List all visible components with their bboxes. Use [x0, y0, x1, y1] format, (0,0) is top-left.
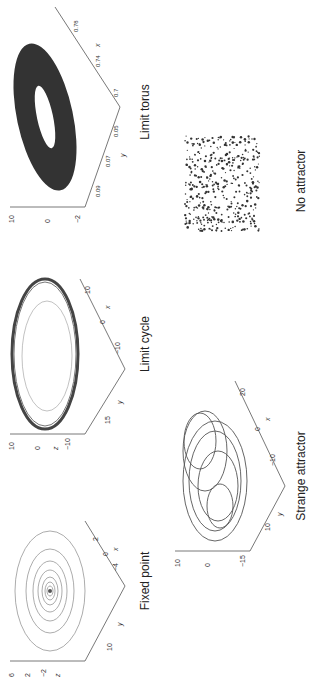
y-axis-label: y	[119, 153, 127, 158]
panel-limit-torus: 10 0 −2 0.09 0.07 0.05 y 0.7 0.74 0.78 x…	[0, 0, 160, 227]
z-tick: −10	[64, 438, 71, 450]
no-attractor-plot	[160, 0, 314, 341]
limit-cycle-plot: 10 0 −10 z 15 y −10 0 10 x	[0, 227, 160, 454]
caption-limit-torus: Limit torus	[138, 72, 152, 152]
z-tick: 0	[204, 563, 211, 567]
figure-canvas: 6 2 −2 z 10 y −4 0 2 x Fixed point 10 0 …	[0, 0, 314, 681]
y-axis-label: y	[116, 622, 124, 627]
z-tick: 2	[24, 673, 31, 677]
panel-no-attractor: No attractor	[160, 0, 314, 341]
strange-attractor-plot: 10 0 −15 10 y −10 0 20 x	[160, 341, 314, 681]
x-tick: 0.74	[95, 55, 101, 67]
z-tick: −2	[74, 215, 81, 223]
y-axis-label: y	[276, 512, 284, 517]
caption-no-attractor: No attractor	[294, 131, 308, 231]
x-tick: 0	[99, 320, 106, 324]
x-tick: 20	[239, 388, 246, 396]
y-tick: 0.07	[105, 155, 111, 167]
y-axis-label: y	[116, 400, 124, 405]
panel-limit-cycle: 10 0 −10 z 15 y −10 0 10 x Limit cycle	[0, 227, 160, 454]
x-tick: −10	[269, 454, 276, 466]
z-tick: 0	[44, 219, 51, 223]
caption-strange-attractor: Strange attractor	[294, 421, 308, 531]
caption-limit-cycle: Limit cycle	[138, 304, 152, 384]
z-tick: −15	[239, 555, 246, 567]
z-axis-label: z	[52, 446, 59, 451]
x-tick: 0	[254, 427, 261, 431]
y-tick: 10	[264, 523, 271, 531]
limit-torus-plot: 10 0 −2 0.09 0.07 0.05 y 0.7 0.74 0.78 x	[0, 0, 160, 227]
z-tick: 6	[8, 673, 15, 677]
fixed-point-plot: 6 2 −2 z 10 y −4 0 2 x	[0, 454, 160, 681]
x-tick: −4	[112, 563, 119, 571]
y-tick: 10	[106, 643, 113, 651]
panel-fixed-point: 6 2 −2 z 10 y −4 0 2 x Fixed point	[0, 454, 160, 681]
z-tick: 0	[34, 446, 41, 450]
x-axis-label: x	[104, 305, 111, 310]
x-tick: 2	[92, 537, 99, 541]
x-axis-label: x	[112, 547, 119, 552]
x-axis-label: x	[264, 417, 271, 422]
y-tick: 0.09	[95, 185, 101, 197]
x-tick: 0.7	[113, 88, 119, 97]
panel-strange-attractor: 10 0 −15 10 y −10 0 20 x Strange attract…	[160, 341, 314, 681]
x-tick: 0	[102, 552, 109, 556]
z-tick: 10	[174, 559, 181, 567]
y-tick: 15	[104, 416, 111, 424]
z-axis-label: z	[54, 673, 61, 678]
z-tick: 10	[8, 442, 15, 450]
caption-fixed-point: Fixed point	[138, 541, 152, 621]
z-tick: 10	[8, 215, 15, 223]
x-tick: 0.78	[73, 20, 79, 32]
x-axis-label: x	[94, 43, 101, 48]
x-tick: −10	[114, 342, 121, 354]
z-tick: −2	[40, 669, 47, 677]
x-tick: 10	[84, 286, 91, 294]
y-tick: 0.05	[113, 125, 119, 137]
